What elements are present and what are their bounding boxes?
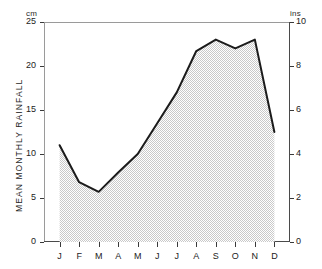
x-axis-tick-mark-december — [274, 242, 275, 247]
right-axis-tick-mark-2 — [290, 198, 294, 199]
left-axis-tick-label-10: 10 — [18, 148, 36, 158]
x-axis-tick-mark-january — [60, 242, 61, 247]
right-axis-tick-label-0: 0 — [296, 236, 314, 246]
left-axis-tick-label-5: 5 — [18, 192, 36, 202]
left-axis-tick-mark-0 — [40, 242, 44, 243]
x-axis-tick-mark-february — [79, 242, 80, 247]
right-axis-tick-mark-6 — [290, 110, 294, 111]
right-axis-tick-label-6: 6 — [296, 104, 314, 114]
right-axis-tick-label-8: 8 — [296, 60, 314, 70]
plot-area — [44, 22, 290, 242]
x-axis-tick-label-march: M — [94, 251, 104, 261]
rainfall-chart: cm ins MEAN MONTHLY RAINFALL 2520151050 … — [0, 0, 322, 269]
x-axis-tick-mark-august — [196, 242, 197, 247]
right-axis-tick-mark-0 — [290, 242, 294, 243]
x-axis-tick-label-september: S — [211, 251, 221, 261]
x-axis-tick-label-november: N — [250, 251, 260, 261]
right-axis-tick-label-4: 4 — [296, 148, 314, 158]
left-axis-tick-label-0: 0 — [18, 236, 36, 246]
rainfall-series — [44, 22, 290, 242]
right-axis-tick-mark-4 — [290, 154, 294, 155]
x-axis-tick-label-december: D — [269, 251, 279, 261]
x-axis-tick-mark-march — [99, 242, 100, 247]
x-axis-tick-mark-june — [157, 242, 158, 247]
x-axis-tick-label-july: J — [172, 251, 182, 261]
x-axis-tick-label-february: F — [74, 251, 84, 261]
rainfall-area-fill — [60, 40, 275, 242]
x-axis-tick-mark-september — [216, 242, 217, 247]
x-axis-tick-label-october: O — [230, 251, 240, 261]
x-axis-tick-label-april: A — [113, 251, 123, 261]
left-axis-tick-label-20: 20 — [18, 60, 36, 70]
right-axis-tick-label-10: 10 — [296, 16, 314, 26]
right-axis-tick-label-2: 2 — [296, 192, 314, 202]
x-axis-tick-mark-november — [255, 242, 256, 247]
x-axis-tick-mark-october — [235, 242, 236, 247]
left-axis-tick-label-15: 15 — [18, 104, 36, 114]
right-axis-tick-mark-8 — [290, 66, 294, 67]
x-axis-tick-mark-april — [118, 242, 119, 247]
x-axis-tick-label-june: J — [152, 251, 162, 261]
x-axis-tick-mark-july — [177, 242, 178, 247]
left-axis-tick-label-25: 25 — [18, 16, 36, 26]
x-axis-tick-label-august: A — [191, 251, 201, 261]
right-axis-tick-mark-10 — [290, 22, 294, 23]
x-axis-tick-label-may: M — [133, 251, 143, 261]
x-axis-tick-label-january: J — [55, 251, 65, 261]
x-axis-tick-mark-may — [138, 242, 139, 247]
